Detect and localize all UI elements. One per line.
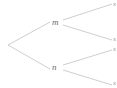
- node-label-n: n: [52, 63, 57, 72]
- edge-n-to-leaf-4: [63, 70, 112, 85]
- leaf-label-2: x: [113, 36, 116, 43]
- edge-root-to-n: [8, 45, 50, 69]
- leaf-label-4: x: [113, 80, 116, 87]
- leaf-label-1: x: [113, 1, 116, 8]
- leaf-label-3: x: [113, 46, 116, 53]
- tree-edges-layer: [0, 0, 117, 88]
- edge-root-to-m: [8, 22, 50, 45]
- edge-n-to-leaf-3: [63, 50, 112, 65]
- edge-m-to-leaf-2: [63, 25, 112, 40]
- node-label-m: m: [52, 18, 59, 27]
- edge-m-to-leaf-1: [63, 4, 112, 20]
- tree-diagram: m n x x x x: [0, 0, 117, 88]
